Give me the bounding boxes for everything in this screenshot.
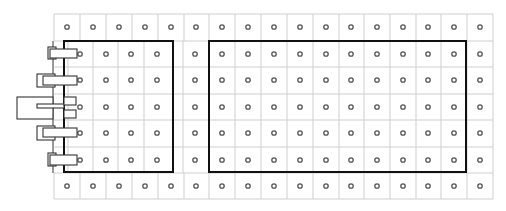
mounting-hole-icon — [401, 52, 405, 56]
mounting-hole-icon — [117, 184, 121, 188]
mounting-hole-icon — [194, 25, 198, 29]
mounting-hole-icon — [78, 105, 82, 109]
mounting-hole-icon — [220, 78, 224, 82]
mounting-hole-icon — [220, 184, 224, 188]
mounting-hole-icon — [91, 25, 95, 29]
mounting-hole-icon — [298, 105, 302, 109]
mounting-hole-icon — [298, 184, 302, 188]
mounting-hole-icon — [104, 78, 108, 82]
mounting-hole-icon — [426, 52, 430, 56]
mounting-hole-icon — [104, 105, 108, 109]
panel-layout-diagram — [0, 0, 506, 211]
mounting-hole-icon — [324, 131, 328, 135]
mounting-hole-icon — [104, 131, 108, 135]
mounting-hole-icon — [478, 184, 482, 188]
mounting-hole-icon — [78, 131, 82, 135]
mounting-hole-icon — [349, 105, 353, 109]
mounting-hole-icon — [78, 78, 82, 82]
connector-4 — [37, 126, 77, 140]
mounting-hole-icon — [220, 52, 224, 56]
mounting-hole-icon — [65, 25, 69, 29]
mounting-hole-icon — [246, 78, 250, 82]
mounting-hole-icon — [426, 25, 430, 29]
mounting-hole-icon — [298, 78, 302, 82]
mounting-hole-icon — [349, 131, 353, 135]
mounting-hole-icon — [155, 52, 159, 56]
mounting-hole-icon — [375, 25, 379, 29]
mounting-hole-icon — [375, 52, 379, 56]
mounting-hole-icon — [272, 184, 276, 188]
mounting-hole-icon — [298, 52, 302, 56]
mounting-hole-icon — [324, 52, 328, 56]
mounting-hole-icon — [155, 158, 159, 162]
mounting-hole-icon — [104, 52, 108, 56]
mounting-hole-icon — [426, 78, 430, 82]
mounting-hole-icon — [193, 158, 197, 162]
mounting-hole-icon — [129, 78, 133, 82]
connector-1 — [48, 47, 77, 59]
mounting-hole-icon — [220, 25, 224, 29]
mounting-hole-icon — [298, 158, 302, 162]
connector-tab — [64, 110, 76, 118]
mounting-hole-icon — [375, 131, 379, 135]
mounting-hole-icon — [193, 131, 197, 135]
mounting-hole-icon — [78, 158, 82, 162]
mounting-hole-icon — [65, 184, 69, 188]
mounting-hole-icon — [452, 131, 456, 135]
mounting-hole-icon — [78, 52, 82, 56]
mounting-hole-icon — [246, 158, 250, 162]
connector-tab — [64, 97, 76, 105]
mounting-hole-icon — [426, 184, 430, 188]
mounting-hole-icon — [452, 184, 456, 188]
mounting-hole-icon — [155, 105, 159, 109]
mounting-hole-icon — [478, 105, 482, 109]
mounting-hole-icon — [452, 78, 456, 82]
mounting-hole-icon — [452, 105, 456, 109]
mounting-hole-icon — [452, 52, 456, 56]
mounting-hole-icon — [129, 105, 133, 109]
mounting-hole-icon — [401, 78, 405, 82]
mounting-hole-icon — [129, 131, 133, 135]
mounting-hole-icon — [426, 105, 430, 109]
mounting-hole-icon — [349, 78, 353, 82]
mounting-hole-icon — [298, 131, 302, 135]
mounting-hole-icon — [246, 131, 250, 135]
connector-plug — [50, 155, 77, 165]
mounting-hole-icon — [375, 105, 379, 109]
mounting-hole-icon — [272, 78, 276, 82]
mounting-hole-icon — [129, 52, 133, 56]
mounting-hole-icon — [349, 158, 353, 162]
mounting-hole-icon — [375, 158, 379, 162]
connector-plug — [50, 49, 77, 58]
connector-slot — [37, 104, 64, 108]
mounting-hole-icon — [117, 25, 121, 29]
mounting-hole-icon — [401, 105, 405, 109]
mounting-hole-icon — [452, 25, 456, 29]
mounting-hole-icon — [401, 158, 405, 162]
mounting-hole-icon — [324, 25, 328, 29]
mounting-hole-icon — [272, 131, 276, 135]
mounting-hole-icon — [220, 158, 224, 162]
mounting-hole-icon — [129, 158, 133, 162]
mounting-hole-icon — [478, 52, 482, 56]
mounting-hole-icon — [401, 25, 405, 29]
mounting-hole-icon — [193, 52, 197, 56]
mounting-hole-icon — [246, 105, 250, 109]
mounting-hole-icon — [349, 52, 353, 56]
connector-plug — [43, 76, 77, 85]
mounting-hole-icon — [246, 25, 250, 29]
mounting-hole-icon — [169, 184, 173, 188]
connector-3 — [17, 97, 76, 119]
mounting-hole-icon — [155, 78, 159, 82]
mounting-hole-icon — [349, 25, 353, 29]
mounting-hole-icon — [452, 158, 456, 162]
mounting-hole-icon — [104, 158, 108, 162]
mounting-hole-icon — [478, 25, 482, 29]
mounting-hole-icon — [324, 78, 328, 82]
mounting-hole-icon — [324, 184, 328, 188]
mounting-holes — [65, 25, 482, 188]
mounting-hole-icon — [324, 158, 328, 162]
mounting-hole-icon — [426, 131, 430, 135]
mounting-hole-icon — [349, 184, 353, 188]
mounting-hole-icon — [272, 158, 276, 162]
